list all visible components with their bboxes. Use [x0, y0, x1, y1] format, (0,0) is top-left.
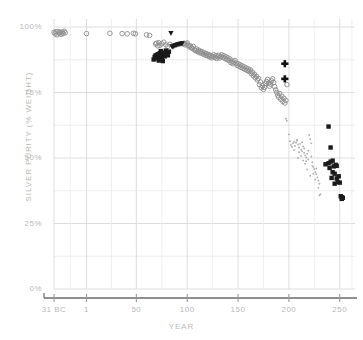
x-tick-label: 50 — [116, 305, 156, 314]
data-point — [298, 147, 300, 149]
data-point — [318, 183, 320, 185]
chart-container: 0%25%50%75%100% 31 BC150100150200250 SIL… — [0, 0, 363, 340]
data-point — [304, 163, 306, 165]
data-point — [330, 158, 334, 162]
y-tick-label: 25% — [8, 219, 42, 228]
data-point — [288, 133, 290, 135]
data-point — [120, 31, 125, 36]
y-tick-label: 0% — [8, 284, 42, 293]
data-point — [317, 180, 319, 182]
data-point — [302, 160, 304, 162]
data-point — [305, 157, 307, 159]
x-tick-label: 150 — [218, 305, 258, 314]
data-point — [300, 155, 302, 157]
data-point — [337, 174, 341, 178]
data-point — [151, 57, 155, 61]
data-point — [302, 146, 304, 148]
x-tick-label: 100 — [167, 305, 207, 314]
data-point — [168, 31, 173, 36]
data-point — [291, 146, 293, 148]
data-point — [317, 187, 319, 189]
data-point — [296, 139, 298, 141]
x-tick-label: 250 — [320, 305, 360, 314]
data-point — [306, 153, 308, 155]
data-point — [308, 134, 310, 136]
data-point — [326, 124, 330, 128]
data-point — [293, 149, 295, 151]
data-point — [338, 180, 342, 184]
data-point — [157, 58, 161, 62]
data-point — [272, 84, 277, 89]
data-point — [329, 176, 333, 180]
data-point — [147, 33, 152, 38]
data-point — [294, 145, 296, 147]
data-point — [305, 160, 307, 162]
data-point — [289, 140, 291, 142]
data-point — [309, 175, 311, 177]
data-point — [315, 173, 317, 175]
data-point — [299, 143, 301, 145]
data-point — [310, 142, 312, 144]
x-tick-label: 1 — [67, 305, 107, 314]
data-point — [328, 145, 332, 149]
data-points-group — [52, 29, 345, 201]
data-point — [164, 48, 168, 52]
data-point — [281, 75, 288, 82]
data-point — [334, 164, 338, 168]
data-point — [286, 120, 288, 122]
data-point — [159, 49, 163, 53]
data-point — [297, 157, 299, 159]
data-point — [297, 143, 299, 145]
data-point — [307, 150, 309, 152]
y-tick-label: 100% — [8, 22, 42, 31]
data-point — [292, 142, 294, 144]
data-point — [309, 138, 311, 140]
data-point — [327, 166, 331, 170]
data-point — [315, 168, 317, 170]
data-point — [318, 194, 320, 196]
data-point — [316, 176, 318, 178]
x-axis-line-group — [44, 293, 357, 302]
data-point — [311, 161, 313, 163]
data-point — [304, 154, 306, 156]
data-point — [298, 151, 300, 153]
data-point — [311, 165, 313, 167]
data-point — [306, 169, 308, 171]
data-point — [303, 152, 305, 154]
gridlines-group — [54, 19, 355, 289]
data-point — [293, 141, 295, 143]
data-point — [303, 148, 305, 150]
data-point — [125, 32, 130, 37]
data-point — [301, 150, 303, 152]
data-point — [284, 84, 286, 86]
data-point — [300, 149, 302, 151]
data-point — [295, 142, 297, 144]
data-point — [281, 60, 288, 67]
data-point — [323, 162, 327, 166]
data-point — [312, 173, 314, 175]
x-axis-title: YEAR — [0, 322, 363, 331]
data-point — [307, 159, 309, 161]
data-point — [285, 118, 287, 120]
data-point — [290, 144, 292, 146]
data-point — [314, 179, 316, 181]
data-point — [332, 172, 336, 176]
data-point — [341, 196, 345, 200]
data-point — [301, 141, 303, 143]
scatter-plot-canvas — [0, 0, 363, 340]
data-point — [313, 168, 315, 170]
data-point — [161, 59, 165, 63]
x-tick-label: 200 — [269, 305, 309, 314]
data-point — [314, 171, 316, 173]
y-axis-title: SILVER PURITY (% WEIGHT) — [24, 57, 33, 217]
data-point — [310, 155, 312, 157]
data-point — [332, 181, 336, 185]
